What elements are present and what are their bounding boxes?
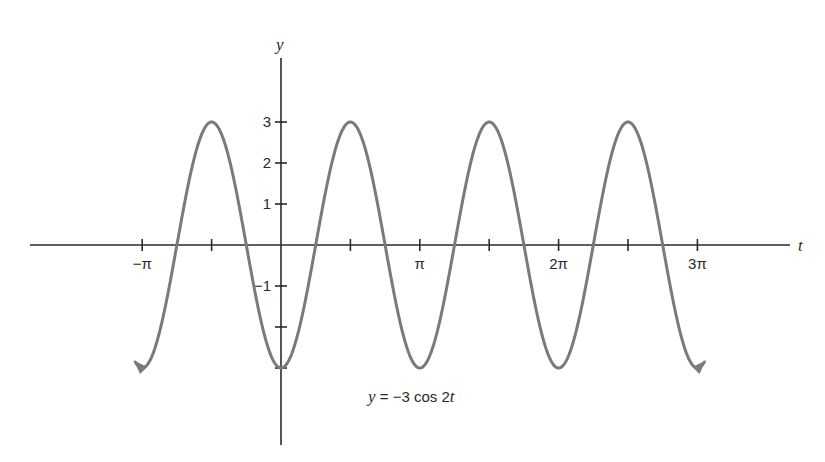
y-tick-label: 3 (263, 113, 271, 130)
y-ticks: 321−1 (254, 113, 287, 368)
x-tick-label: 2π (549, 255, 568, 272)
formula-caption: y = −3 cos 2t (366, 387, 456, 406)
y-tick-label: 2 (263, 154, 271, 171)
formula-eq: = −3 cos 2 (376, 388, 450, 405)
formula-var: y (366, 387, 376, 406)
arrow-right-icon (692, 361, 705, 375)
x-tick-label: π (415, 255, 425, 272)
arrow-left-icon (134, 361, 147, 375)
x-ticks: −ππ2π3π (133, 239, 707, 272)
y-tick-label: 1 (263, 195, 271, 212)
t-axis-label: t (798, 236, 804, 255)
x-tick-label: 3π (688, 255, 707, 272)
x-tick-label: −π (133, 255, 152, 272)
cosine-graph: t y −ππ2π3π 321−1 y = −3 cos 2t (0, 0, 825, 462)
y-tick-label: −1 (254, 277, 271, 294)
formula-t: t (450, 387, 456, 406)
y-axis-label: y (274, 35, 284, 54)
